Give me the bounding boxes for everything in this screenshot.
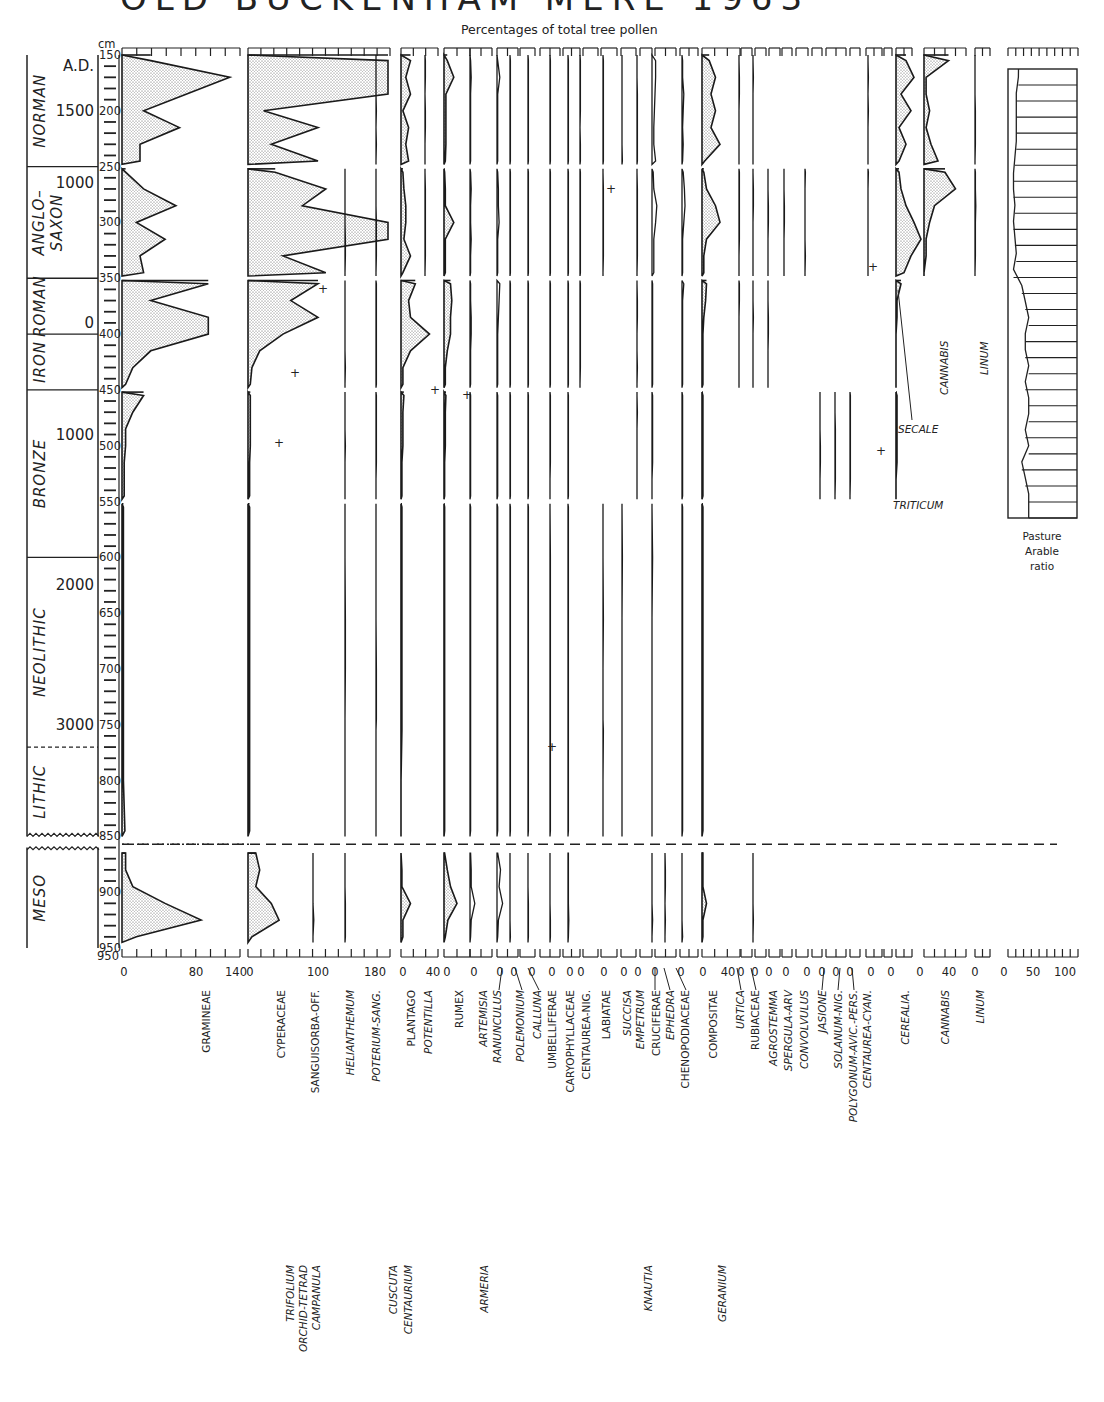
cultural-periods-column: NORMANANGLO–SAXONROMANIRONBRONZENEOLITHI…	[27, 55, 99, 948]
period-label: IRON	[31, 341, 49, 383]
linum-annotation: LINUM	[978, 341, 990, 375]
pollen-curve-segment	[682, 853, 683, 942]
taxon-label: GRAMINEAE	[200, 990, 212, 1053]
scale-label: 0	[399, 965, 406, 979]
triticum-annotation: TRITICUM	[893, 499, 943, 511]
depth-tick-label: 850	[99, 829, 121, 843]
taxon-label: RUMEX	[453, 990, 465, 1028]
taxon-label: PLANTAGO	[405, 990, 417, 1046]
taxon-label: KNAUTIA	[642, 1265, 654, 1311]
scale-label: 0	[677, 965, 684, 979]
pollen-curve-segment	[248, 504, 250, 837]
presence-marker: +	[876, 444, 886, 458]
pollen-curve-segment	[652, 280, 653, 387]
scale-label: 0	[699, 965, 706, 979]
scale-label: 0	[867, 965, 874, 979]
secale-annotation: SECALE	[898, 423, 939, 435]
taxon-label: COMPOSITAE	[707, 990, 719, 1058]
pollen-curve-segment	[470, 853, 475, 942]
pollen-curve-segment	[682, 280, 684, 387]
taxon-label: CENTAUREA-CYAN.	[861, 990, 873, 1088]
pollen-diagram: NORMANANGLO–SAXONROMANIRONBRONZENEOLITHI…	[0, 0, 1104, 1402]
taxon-label: ORCHID-TETRAD	[297, 1265, 309, 1352]
scale-label: 100	[1054, 965, 1076, 979]
pollen-curve-segment	[924, 169, 956, 276]
pollen-curve-segment	[470, 169, 471, 276]
pollen-curve-segment	[470, 55, 471, 164]
pollen-curve-segment	[682, 169, 685, 276]
depth-tick-label: 550	[99, 495, 121, 509]
taxon-label: SANGUISORBA-OFF.	[309, 990, 321, 1093]
period-label: ANGLO–	[30, 189, 48, 256]
pollen-curve-segment	[702, 169, 720, 276]
scale-label: 0	[971, 965, 978, 979]
taxon-label: CALLUNA	[531, 990, 543, 1039]
depth-tick-label: 700	[99, 662, 121, 676]
date-label: 1000	[56, 174, 94, 192]
scale-label: 100	[307, 965, 329, 979]
scale-label: 80	[189, 965, 204, 979]
pollen-curve-segment	[248, 392, 250, 499]
presence-marker: +	[290, 366, 300, 380]
ratio-label: Pasture	[1022, 530, 1061, 542]
taxon-label: EMPETRUM	[634, 990, 646, 1049]
pollen-curve-segment	[702, 392, 703, 499]
presence-marker: +	[462, 388, 472, 402]
taxon-label: POTERIUM-SANG.	[370, 990, 382, 1082]
presence-marker: +	[606, 182, 616, 196]
pollen-curve-segment	[122, 280, 208, 387]
pollen-curve-segment	[497, 392, 498, 499]
scale-label: 40	[942, 965, 957, 979]
pollen-curve-segment	[122, 55, 230, 164]
depth-tick-label: 300	[99, 215, 121, 229]
scale-label: 0	[577, 965, 584, 979]
pollen-curve-segment	[924, 55, 949, 164]
taxon-label: ARTEMISIA	[477, 990, 489, 1048]
scale-label: 0	[818, 965, 825, 979]
pollen-curve-segment	[122, 392, 144, 499]
taxa-labels: GRAMINEAECYPERACEAESANGUISORBA-OFF.HELIA…	[200, 968, 986, 1352]
pollen-curve-segment	[497, 853, 503, 942]
taxon-label: CANNABIS	[939, 990, 951, 1045]
pollen-curve-segment	[652, 55, 656, 164]
taxon-label: SUCCISA	[621, 990, 633, 1036]
pollen-curve-segment	[122, 853, 201, 942]
pollen-curve-segment	[896, 169, 921, 276]
depth-tick-label: 650	[99, 606, 121, 620]
scale-label: 0	[566, 965, 573, 979]
period-label: MESO	[31, 874, 49, 922]
scale-label: 0	[443, 965, 450, 979]
period-label: ROMAN	[31, 275, 49, 337]
period-label: LITHIC	[31, 765, 49, 819]
taxon-label: POLYGONUM-AVIC.-PERS.	[847, 990, 859, 1122]
pollen-curve-segment	[248, 169, 388, 276]
pollen-curve-segment	[497, 55, 500, 164]
taxon-label: TRIFOLIUM	[284, 1265, 296, 1322]
scale-label: 0	[246, 965, 253, 979]
scale-label: 0	[782, 965, 789, 979]
pasture-arable-ratio-chart: PastureArableratio	[1008, 69, 1077, 572]
period-label: BRONZE	[31, 439, 49, 509]
taxon-label: CENTAUREA-NIG.	[580, 990, 592, 1079]
depth-tick-label: 150	[99, 48, 121, 62]
pollen-curve-segment	[896, 392, 897, 499]
pollen-curve-segment	[401, 853, 411, 942]
scale-label: 0	[620, 965, 627, 979]
presence-marker: +	[430, 383, 440, 397]
pollen-curve-segment	[444, 280, 452, 387]
taxon-label: LABIATAE	[600, 990, 612, 1039]
pollen-curve-segment	[401, 169, 411, 276]
date-label: 1500	[56, 102, 94, 120]
taxon-label: CARYOPHYLLACEAE	[564, 990, 576, 1093]
depth-tick-label: 350	[99, 271, 121, 285]
pollen-curve-segment	[896, 55, 914, 164]
pollen-curve-segment	[470, 280, 471, 387]
depth-tick-label: 600	[99, 550, 121, 564]
pollen-curve-segment	[248, 55, 388, 164]
pollen-curve-segment	[497, 504, 498, 837]
taxon-label: POLEMONIUM	[514, 990, 526, 1062]
pollen-curve-segment	[444, 169, 454, 276]
bottom-scale-axis: 0801400100180040000000000000004000000000…	[97, 949, 1078, 979]
scale-label: 0	[751, 965, 758, 979]
taxon-label: CHENOPODIACEAE	[679, 990, 691, 1089]
